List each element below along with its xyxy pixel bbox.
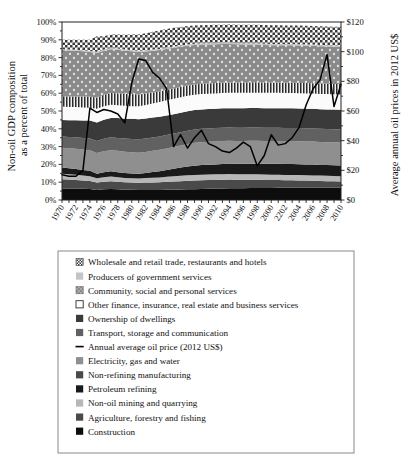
- y-axis-right-title: Average annual oil prices in 2012 US$: [389, 34, 400, 197]
- y-axis-right-tick-label: $20: [347, 165, 360, 175]
- y-axis-right-tick-label: $0: [347, 195, 356, 205]
- x-axis-tick-label: 1974: [77, 202, 95, 222]
- x-axis-tick-label: 1996: [230, 202, 248, 222]
- x-axis-tick-label: 1984: [146, 202, 164, 222]
- legend-swatch-icon: [76, 385, 83, 392]
- legend-item[interactable]: Other finance, insurance, real estate an…: [76, 300, 299, 310]
- y-axis-left-tick-label: 30%: [41, 142, 57, 152]
- y-axis-left-tick-label: 70%: [41, 70, 57, 80]
- legend-swatch-icon: [76, 315, 83, 322]
- x-axis-tick-label: 1986: [160, 202, 178, 222]
- legend-item-label: Transport, storage and communication: [88, 328, 229, 338]
- y-axis-right-tick-label: $100: [347, 47, 364, 57]
- legend-item[interactable]: Electricity, gas and water: [76, 356, 180, 366]
- legend-swatch-icon: [76, 371, 83, 378]
- y-axis-right-tick-label: $120: [347, 17, 364, 27]
- chart-figure: 0%10%20%30%40%50%60%70%80%90%100%$0$20$4…: [0, 0, 409, 459]
- x-axis-tick-label: 2008: [314, 203, 332, 223]
- legend-item-label: Construction: [88, 427, 135, 437]
- x-axis-tick-label: 1982: [132, 203, 150, 223]
- legend-item[interactable]: Transport, storage and communication: [76, 328, 229, 338]
- non-oil-gdp-composition-chart: 0%10%20%30%40%50%60%70%80%90%100%$0$20$4…: [0, 0, 409, 459]
- x-axis-tick-label: 1994: [216, 202, 234, 222]
- x-axis-tick-label: 1992: [202, 203, 220, 223]
- legend-swatch-dots-icon: [76, 287, 83, 294]
- x-axis-tick-label: 2006: [300, 202, 318, 222]
- x-axis-tick-label: 1976: [90, 202, 108, 222]
- legend-item[interactable]: Community, social and personal services: [76, 286, 237, 296]
- legend-swatch-open-icon: [76, 301, 83, 308]
- legend-item-label: Community, social and personal services: [88, 286, 237, 296]
- legend-item[interactable]: Construction: [76, 427, 135, 437]
- legend-swatch-icon: [76, 329, 83, 336]
- legend-item-label: Petroleum refining: [88, 384, 157, 394]
- x-axis-tick-label: 1988: [174, 203, 192, 223]
- legend-item[interactable]: Ownership of dwellings: [76, 314, 176, 324]
- y-axis-right-tick-label: $60: [347, 106, 360, 116]
- y-axis-right-tick-label: $40: [347, 136, 360, 146]
- x-axis-tick-label: 2202: [272, 203, 290, 223]
- legend-item-label: Producers of government services: [88, 272, 212, 282]
- x-axis-tick-label: 1978: [104, 203, 122, 223]
- legend-item-label: Other finance, insurance, real estate an…: [88, 300, 299, 310]
- x-axis-tick-label: 1980: [118, 203, 136, 223]
- legend-item-label: Agriculture, forestry and fishing: [88, 413, 206, 423]
- legend-item-label: Non-refining manufacturing: [88, 370, 191, 380]
- y-axis-left-tick-label: 0%: [45, 195, 56, 205]
- legend-item[interactable]: Non-oil mining and quarrying: [76, 398, 198, 408]
- y-axis-left-tick-label: 80%: [41, 53, 57, 63]
- y-axis-left-tick-label: 50%: [41, 106, 57, 116]
- legend-item-label: Ownership of dwellings: [88, 314, 176, 324]
- legend-item[interactable]: Annual average oil price (2012 US$): [76, 342, 223, 352]
- y-axis-left-tick-label: 20%: [41, 159, 57, 169]
- x-axis-tick-label: 1972: [63, 203, 81, 223]
- legend-item[interactable]: Wholesale and retail trade, restaurants …: [76, 257, 267, 267]
- legend-item-label: Electricity, gas and water: [88, 356, 180, 366]
- y-axis-right-tick-label: $80: [347, 76, 360, 86]
- x-axis-tick-label: 2010: [328, 203, 346, 223]
- legend-item-label: Non-oil mining and quarrying: [88, 398, 198, 408]
- legend-item-label: Annual average oil price (2012 US$): [88, 342, 223, 352]
- y-axis-left-tick-label: 10%: [41, 177, 57, 187]
- legend-swatch-checker-icon: [76, 258, 83, 265]
- legend-swatch-icon: [76, 357, 83, 364]
- x-axis-tick-label: 1970: [49, 203, 67, 223]
- legend-swatch-icon: [76, 399, 83, 406]
- stacked-area-series-group: [62, 24, 341, 200]
- y-axis-left-tick-label: 100%: [36, 17, 56, 27]
- x-axis-tick-label: 1998: [244, 203, 262, 223]
- x-axis-tick-label: 2000: [258, 203, 276, 223]
- legend-item[interactable]: Agriculture, forestry and fishing: [76, 413, 206, 423]
- legend-item-label: Wholesale and retail trade, restaurants …: [88, 257, 267, 267]
- x-axis-tick-label: 2004: [286, 202, 304, 222]
- area-band-0: [62, 188, 341, 200]
- legend-swatch-icon: [76, 273, 83, 280]
- legend-item[interactable]: Non-refining manufacturing: [76, 370, 191, 380]
- legend-item[interactable]: Producers of government services: [76, 272, 212, 282]
- legend-item[interactable]: Petroleum refining: [76, 384, 157, 394]
- chart-legend: Wholesale and retail trade, restaurants …: [58, 251, 354, 453]
- y-axis-left-tick-label: 60%: [41, 88, 57, 98]
- y-axis-left-title: Non-oil GDP composition as a percent of …: [6, 58, 29, 171]
- y-axis-left-tick-label: 40%: [41, 124, 57, 134]
- y-axis-left-tick-label: 90%: [41, 35, 57, 45]
- legend-swatch-icon: [76, 414, 83, 421]
- x-axis-tick-label: 1990: [188, 203, 206, 223]
- legend-swatch-icon: [76, 428, 83, 435]
